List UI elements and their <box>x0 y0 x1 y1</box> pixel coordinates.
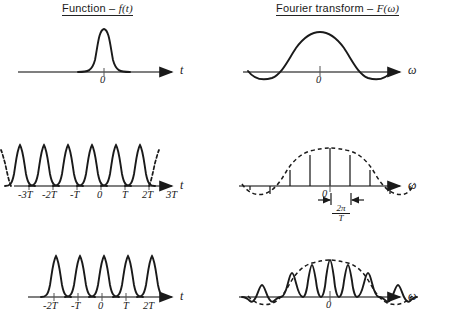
tick-label-negT-r3: -T <box>71 300 80 311</box>
tick-label-neg2T: -2T <box>42 189 57 200</box>
tick-label-zero-r3c1: 0 <box>98 300 103 311</box>
axis-label-omega-r2c2: ω <box>408 178 416 193</box>
tick-label-posT-r3: T <box>123 300 129 311</box>
tick-label-negT: -T <box>70 189 79 200</box>
tick-label-zero-r3c2: 0 <box>326 299 331 310</box>
panel-r3c1 <box>28 256 172 301</box>
tick-label-pos2T-r3: 2T <box>143 300 154 311</box>
tick-label-neg2T-r3: -2T <box>43 300 58 311</box>
tick-label-posT: T <box>122 189 128 200</box>
sinc-envelope-r2c2 <box>242 148 414 195</box>
tick-label-zero-r2c1: 0 <box>97 189 102 200</box>
spacing-denominator: T <box>332 214 350 223</box>
panel-r2c1 <box>1 145 172 190</box>
spacing-annotation-label: 2π T <box>332 204 350 224</box>
tick-label-pos2T: 2T <box>142 189 153 200</box>
pulse-train-r3c1 <box>41 256 167 297</box>
tick-label-zero-r1c2: 0 <box>316 74 321 85</box>
axis-label-t-r3c1: t <box>180 289 183 304</box>
axis-label-t-r2c1: t <box>180 178 183 193</box>
panel-r1c2 <box>243 32 400 79</box>
tick-label-zero-r2c2: 0 <box>322 188 327 199</box>
tick-label-pos3T: 3T <box>166 189 177 200</box>
panel-r1c1 <box>18 29 172 76</box>
fourier-transform-figure: Function – f(t) Fourier transform – F(ω) <box>0 0 457 332</box>
axis-label-omega-r1c2: ω <box>408 63 416 78</box>
pulse-train-r2c1 <box>5 145 155 186</box>
axis-label-t-r1c1: t <box>180 63 183 78</box>
figure-canvas <box>0 0 457 332</box>
pulse-curve-r1c1 <box>78 29 130 72</box>
tick-label-zero-r1c1: 0 <box>100 74 105 85</box>
tick-label-neg3T: -3T <box>18 189 33 200</box>
axis-label-omega-r3c2: ω <box>408 289 416 304</box>
panel-r3c2 <box>239 260 417 305</box>
